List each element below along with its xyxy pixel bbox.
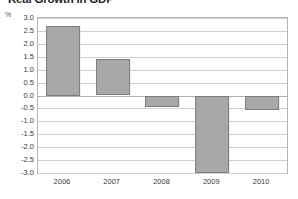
y-tick-label: 0.5 bbox=[4, 77, 34, 86]
y-tick-label: 0.0 bbox=[4, 90, 34, 99]
bar-slot bbox=[237, 18, 287, 173]
x-tick-label: 2008 bbox=[153, 177, 170, 186]
y-tick-label: 2.0 bbox=[4, 38, 34, 47]
x-tick-label: 2010 bbox=[253, 177, 270, 186]
chart-title: Real Growth in GDP bbox=[8, 0, 114, 5]
y-tick-label: -2.0 bbox=[4, 142, 34, 151]
y-tick-label: -2.5 bbox=[4, 155, 34, 164]
bar bbox=[146, 96, 180, 108]
x-tick-label: 2006 bbox=[54, 177, 71, 186]
bar bbox=[245, 96, 279, 110]
bar-slot bbox=[88, 18, 138, 173]
x-tick-label: 2009 bbox=[203, 177, 220, 186]
y-tick-label: 3.0 bbox=[4, 13, 34, 22]
plot-area bbox=[37, 17, 288, 174]
chart-figure: Real Growth in GDP % 3.02.52.01.51.00.50… bbox=[0, 0, 298, 199]
gridline bbox=[38, 173, 287, 174]
y-tick-label: 2.5 bbox=[4, 25, 34, 34]
bar bbox=[96, 59, 130, 95]
bar-slot bbox=[38, 18, 88, 173]
bar bbox=[195, 96, 229, 174]
bar-slot bbox=[187, 18, 237, 173]
y-tick-label: 1.5 bbox=[4, 51, 34, 60]
y-axis-tick-labels: 3.02.52.01.51.00.50.0-0.5-1.0-1.5-2.0-2.… bbox=[0, 17, 34, 174]
y-tick-label: 1.0 bbox=[4, 64, 34, 73]
bar-slot bbox=[138, 18, 188, 173]
y-tick-label: -1.5 bbox=[4, 129, 34, 138]
bar bbox=[46, 26, 80, 96]
x-axis-tick-labels: 20062007200820092010 bbox=[37, 177, 288, 191]
x-tick-label: 2007 bbox=[103, 177, 120, 186]
y-tick-label: -3.0 bbox=[4, 168, 34, 177]
y-tick-label: -1.0 bbox=[4, 116, 34, 125]
y-tick-label: -0.5 bbox=[4, 103, 34, 112]
